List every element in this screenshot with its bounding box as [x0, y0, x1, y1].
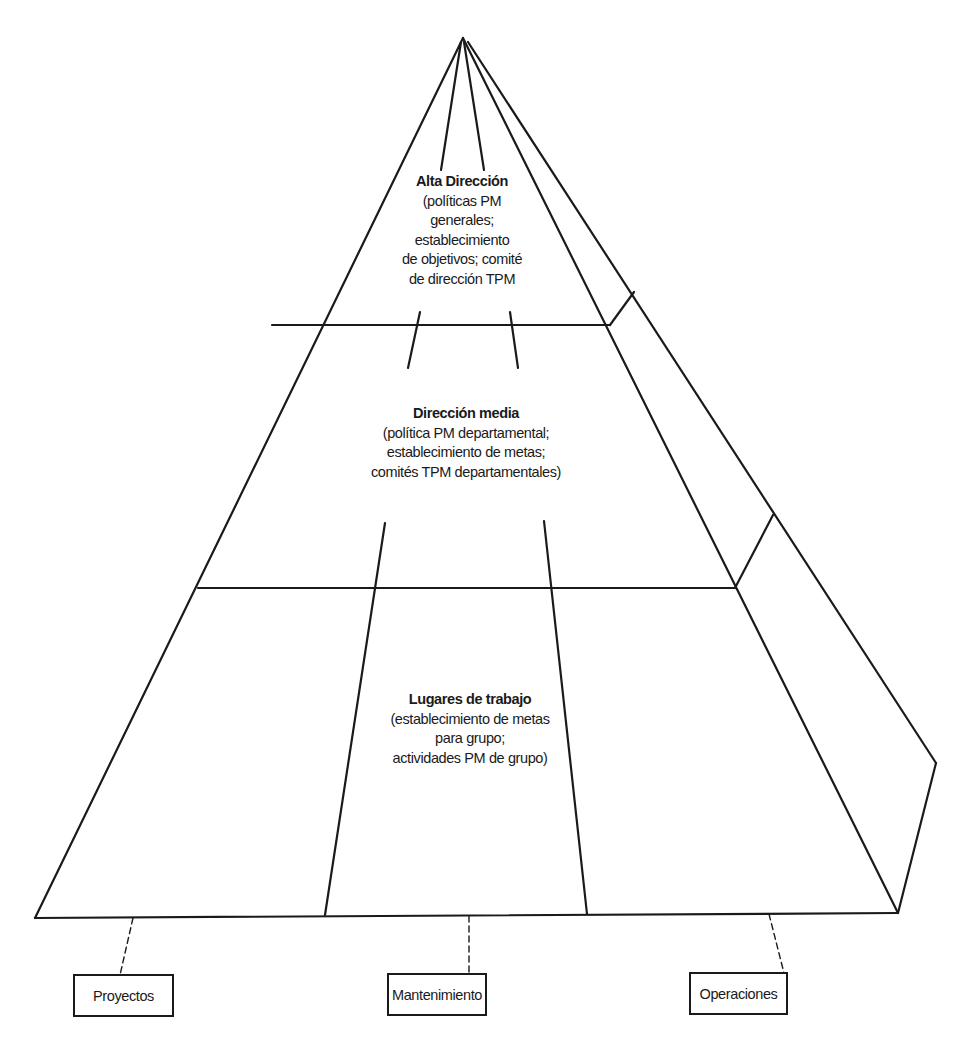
tier-title: Dirección media	[371, 404, 561, 424]
tier-title: Alta Dirección	[402, 172, 522, 192]
tier-line: (establecimiento de metas	[390, 710, 549, 730]
tier-line: (política PM departamental;	[371, 424, 561, 444]
tier-line: de objetivos; comité	[402, 250, 522, 270]
partition-line	[510, 312, 518, 368]
department-box-operaciones: Operaciones	[689, 972, 788, 1015]
department-box-mantenimiento: Mantenimiento	[387, 973, 487, 1016]
tier-lugares-de-trabajo: Lugares de trabajo (establecimiento de m…	[390, 690, 549, 768]
department-label: Mantenimiento	[392, 987, 482, 1003]
tier-direccion-media: Dirección media (política PM departament…	[371, 404, 561, 482]
pyramid-side-bottom-edge	[898, 763, 936, 913]
connector-operaciones	[769, 914, 784, 973]
pyramid-diagram	[0, 0, 958, 1060]
partition-line	[325, 523, 385, 915]
tier-line: establecimiento de metas;	[371, 443, 561, 463]
department-box-proyectos: Proyectos	[73, 974, 174, 1017]
department-label: Proyectos	[93, 988, 154, 1004]
tier-line: comités TPM departamentales)	[371, 463, 561, 483]
tier-line: establecimiento	[402, 231, 522, 251]
partition-line	[544, 521, 587, 914]
tier-line: de dirección TPM	[402, 270, 522, 290]
connector-proyectos	[120, 918, 133, 975]
tier-line: generales;	[402, 211, 522, 231]
pyramid-back-edge	[468, 42, 936, 763]
tier-line: actividades PM de grupo)	[390, 749, 549, 769]
department-label: Operaciones	[700, 986, 778, 1002]
partition-line	[408, 312, 420, 368]
side-divider-top	[610, 292, 634, 325]
side-divider-middle	[735, 515, 773, 588]
tier-title: Lugares de trabajo	[390, 690, 549, 710]
tier-line: para grupo;	[390, 729, 549, 749]
tier-alta-direccion: Alta Dirección (políticas PM generales; …	[402, 172, 522, 289]
tier-line: (políticas PM	[402, 192, 522, 212]
